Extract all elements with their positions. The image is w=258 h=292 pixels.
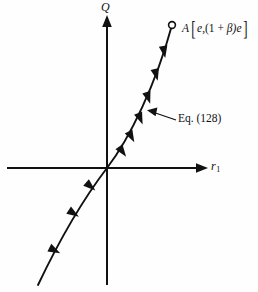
x-axis-label-base: r <box>211 159 216 173</box>
point-a-marker <box>169 22 176 29</box>
point-a-coordinates: e,(1 + β)e <box>197 23 241 35</box>
y-axis-label: Q <box>101 1 110 13</box>
x-axis-arrowhead <box>196 163 208 173</box>
equation-callout-label: Eq. (128) <box>178 113 221 125</box>
x-axis-label-subscript: 1 <box>216 165 220 174</box>
point-a-bracket-open: [ <box>191 18 195 39</box>
figure-container: Q r1 Eq. (128) A[e,(1 + β)e] <box>0 0 258 292</box>
x-axis-label: r1 <box>211 160 220 174</box>
point-a-coord-y-suffix: )e <box>233 22 242 34</box>
eq-callout-arrowhead <box>147 108 157 117</box>
point-a-name: A <box>182 23 189 35</box>
point-a-label: A[e,(1 + β)e] <box>182 18 249 39</box>
point-a-bracket-close: ] <box>243 18 247 39</box>
y-axis-arrowhead <box>102 15 112 27</box>
point-a-coord-y-prefix: (1 + <box>205 22 227 34</box>
eq-callout-leader-line <box>154 113 176 121</box>
figure-canvas <box>0 0 258 292</box>
curve-eq-128 <box>38 25 172 285</box>
